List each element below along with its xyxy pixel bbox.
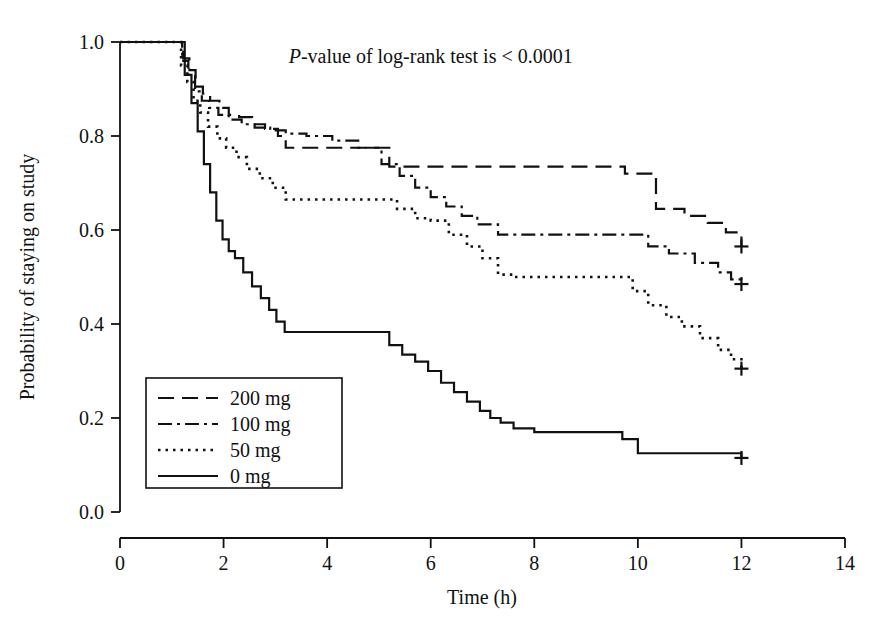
- x-tick-label: 0: [115, 552, 125, 574]
- censor-mark: [734, 362, 748, 376]
- x-tick-label: 8: [529, 552, 539, 574]
- legend-label: 200 mg: [230, 387, 291, 410]
- legend-label: 100 mg: [230, 413, 291, 436]
- x-tick-label: 10: [628, 552, 648, 574]
- logrank-pvalue-text: P-value of log-rank test is < 0.0001: [288, 45, 573, 68]
- y-axis-title: Probability of staying on study: [16, 154, 39, 401]
- x-tick-label: 12: [731, 552, 751, 574]
- legend-label: 50 mg: [230, 439, 281, 462]
- legend-label: 0 mg: [230, 465, 271, 488]
- survival-curve-figure: 0.00.20.40.60.81.0 02468101214 P-value o…: [0, 0, 889, 636]
- y-tick-label: 0.4: [79, 313, 104, 335]
- x-tick-label: 2: [219, 552, 229, 574]
- survival-curve-200-mg: [120, 42, 741, 246]
- kaplan-meier-plot: 0.00.20.40.60.81.0 02468101214 P-value o…: [0, 0, 889, 636]
- y-tick-label: 0.0: [79, 501, 104, 523]
- censor-mark: [734, 277, 748, 291]
- survival-curve-100-mg: [120, 42, 741, 284]
- x-tick-label: 4: [322, 552, 332, 574]
- y-tick-label: 1.0: [79, 31, 104, 53]
- x-axis: 02468101214: [115, 538, 855, 574]
- y-tick-label: 0.6: [79, 219, 104, 241]
- x-axis-title: Time (h): [447, 586, 517, 609]
- censoring-marks: [734, 239, 748, 465]
- y-tick-label: 0.8: [79, 125, 104, 147]
- survival-curve-50-mg: [120, 42, 741, 369]
- censor-mark: [734, 239, 748, 253]
- x-tick-label: 6: [426, 552, 436, 574]
- x-tick-label: 14: [835, 552, 855, 574]
- y-axis: 0.00.20.40.60.81.0: [79, 31, 120, 523]
- legend: 200 mg100 mg50 mg0 mg: [146, 378, 342, 488]
- logrank-annotation: P-value of log-rank test is < 0.0001: [288, 45, 573, 68]
- y-tick-label: 0.2: [79, 407, 104, 429]
